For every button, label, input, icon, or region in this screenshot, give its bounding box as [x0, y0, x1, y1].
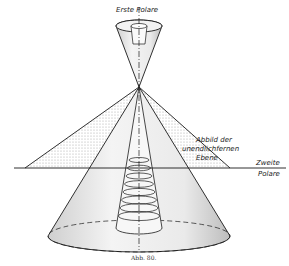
- figure-caption: Abb. 80.: [131, 254, 156, 261]
- label-second-polar-2: Polare: [258, 171, 280, 178]
- label-image-line1: Abbild der: [196, 137, 232, 144]
- label-image-line3: Ebene: [196, 155, 218, 162]
- cone-diagram: [0, 0, 289, 266]
- label-second-polar-1: Zweite: [256, 160, 280, 167]
- label-first-polar: Erste Polare: [116, 7, 158, 14]
- figure-canvas: Erste Polare Abbild der unendlichfernen …: [0, 0, 289, 266]
- label-image-line2: unendlichfernen: [182, 146, 239, 153]
